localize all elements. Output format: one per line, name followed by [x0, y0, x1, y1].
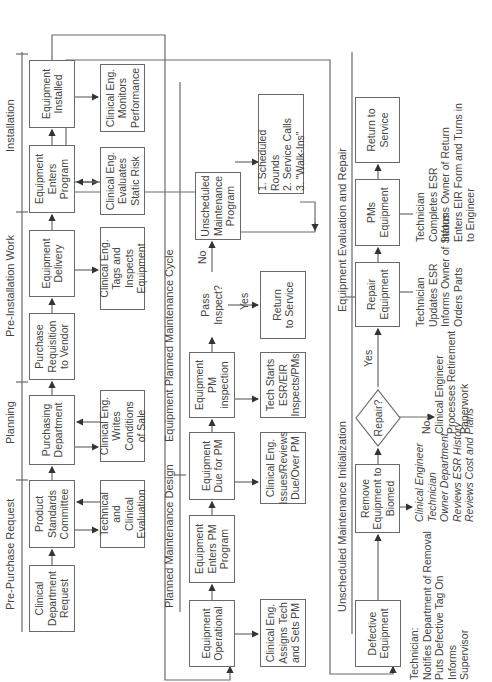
equipment-delivery-box: Equipment Delivery: [29, 230, 75, 297]
section-evaluation-repair: Equipment Evaluation and Repair: [336, 148, 348, 312]
product-standards-committee-box: Product Standards Committee: [29, 480, 75, 548]
equipment-due-for-pm-box: Equipment Due for PM: [189, 432, 235, 500]
tags-inspects-box: Clinical Eng. Tags and Inspects Equipmen…: [100, 227, 145, 310]
remove-to-biomed-box: Remove Equipment to Biomed: [355, 464, 400, 533]
technician-removal-note: Technician: Notifies Department of Remov…: [408, 531, 471, 680]
monitors-performance-box: Clinical Eng. Monitors Performance: [100, 64, 145, 132]
unscheduled-program-box: Unscheduled Maintenance Program: [195, 172, 241, 240]
issues-reviews-box: Clinical Eng. Issues/Reviews Due/Over PM: [260, 432, 306, 504]
defective-equipment-box: Defective Equipment: [355, 600, 401, 667]
pm-inspection-box: Equipment PM inspection: [189, 352, 235, 418]
technical-clinical-evaluation-box: Technical and Clinical Evaluation: [100, 480, 145, 548]
repair-yes-label: Yes: [362, 350, 375, 367]
equipment-installed-box: Equipment Installed: [29, 60, 75, 128]
repair-equipment-box: Repair Equipment: [355, 262, 400, 327]
tech-starts-box: Tech Starts ESR/EIR Inspects/PMs: [260, 352, 306, 418]
pass-no-label: No: [196, 251, 209, 264]
equipment-enters-pm-box: Equipment Enters PM Program: [189, 515, 235, 583]
section-pre-purchase: Pre-Purchase Request: [4, 499, 16, 610]
retirement-note: No-- Clinical Engineer Processes Retirem…: [420, 331, 470, 434]
return-to-service-box-row2: Return to Service: [260, 271, 306, 339]
pass-yes-label: Yes: [238, 293, 251, 310]
section-pre-installation: Pre-Installation Work: [4, 235, 16, 337]
assigns-tech-box: Clinical Eng. Assigns Tech and Sets PM: [260, 599, 306, 667]
return-to-service-box-row3: Return to Service: [355, 97, 400, 163]
flowchart-canvas: Pre-Purchase Request Planning Pre-Instal…: [0, 0, 492, 682]
section-unscheduled-init: Unscheduled Maintenance Initialization: [336, 421, 348, 612]
section-planned-design: Planned Maintenance Design: [163, 464, 175, 608]
repair-decision: Repair?: [372, 390, 385, 446]
pms-technician-note: Technician Completes ESR Informs Owner o…: [414, 103, 477, 242]
purchasing-department-box: Purchasing Department: [29, 395, 75, 465]
maintenance-sources-box: 1. Scheduled Rounds 2. Service Calls 3. …: [258, 94, 304, 194]
section-planned-cycle: Equipment Planned Maintenance Cycle: [163, 249, 175, 442]
equipment-operational-box: Equipment Operational: [189, 600, 235, 667]
equipment-enters-program-box: Equipment Enters Program: [29, 145, 75, 213]
section-installation: Installation: [4, 99, 16, 152]
purchase-requisition-box: Purchase Requisition to Vendor: [29, 313, 75, 380]
evaluates-static-risk-box: Clinical Eng. Evaluates Static Risk: [100, 147, 145, 215]
clinical-department-request-box: Clinical Department Request: [29, 565, 75, 632]
section-planning: Planning: [4, 401, 16, 444]
pass-inspect-decision: Pass Inspect?: [199, 274, 224, 336]
pms-equipment-box: PMs Equipment: [355, 179, 400, 246]
writes-conditions-box: Clinical Eng. Writes Conditions of Sale: [100, 390, 145, 462]
